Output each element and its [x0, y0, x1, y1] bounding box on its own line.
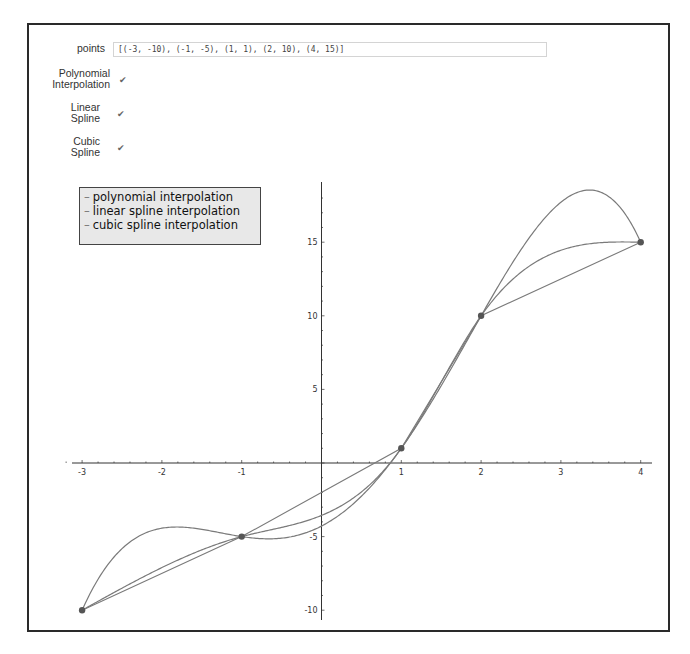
- legend: –polynomial interpolation –linear spline…: [79, 187, 261, 245]
- curves: [82, 190, 641, 610]
- data-point: [79, 607, 85, 613]
- x-tick-label: -1: [238, 468, 246, 477]
- data-point: [239, 533, 245, 539]
- legend-item-polynomial: –polynomial interpolation: [84, 190, 256, 204]
- y-tick-label: -5: [310, 533, 318, 542]
- data-point: [478, 313, 484, 319]
- x-tick-label: -3: [78, 468, 86, 477]
- legend-line-icon: –: [84, 190, 90, 204]
- legend-label: cubic spline interpolation: [93, 218, 238, 232]
- y-tick-label: 10: [307, 312, 317, 321]
- polynomial-interpolation-curve: [82, 190, 641, 610]
- x-tick-label: 3: [558, 468, 563, 477]
- x-tick-label: 4: [638, 468, 643, 477]
- legend-item-linear: –linear spline interpolation: [84, 204, 256, 218]
- plot-area: -3-2-11234-10-551015: [0, 0, 690, 654]
- cubic-spline-curve: [82, 242, 641, 610]
- legend-item-cubic: –cubic spline interpolation: [84, 218, 256, 232]
- y-tick-label: 15: [307, 238, 317, 247]
- y-tick-label: 5: [312, 385, 317, 394]
- x-tick-label: 1: [399, 468, 404, 477]
- legend-label: linear spline interpolation: [93, 204, 240, 218]
- x-tick-label: 2: [479, 468, 484, 477]
- legend-label: polynomial interpolation: [93, 190, 233, 204]
- data-point: [398, 445, 404, 451]
- axes: -3-2-11234-10-551015: [66, 182, 652, 620]
- legend-line-icon: –: [84, 218, 90, 232]
- data-points: [79, 239, 644, 613]
- data-point: [638, 239, 644, 245]
- linear-spline-curve: [82, 242, 641, 610]
- y-tick-label: -10: [304, 606, 317, 615]
- legend-line-icon: –: [84, 204, 90, 218]
- x-tick-label: -2: [158, 468, 166, 477]
